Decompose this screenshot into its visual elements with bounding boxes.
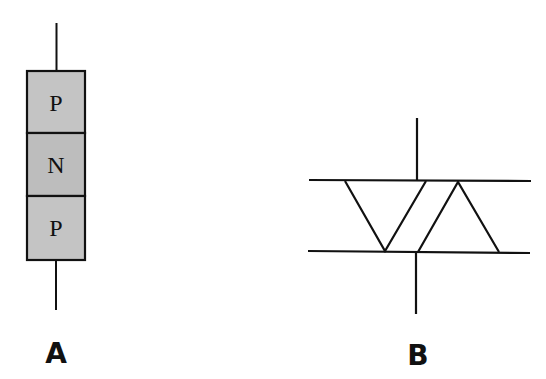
layer-label-p-top: P [49,90,62,116]
diagram-b-label: B [407,339,428,372]
diagram-b-top-rail [309,180,531,181]
diagram-a: P N P A [27,23,85,370]
layer-label-p-bottom: P [49,215,62,241]
diagram-a-label: A [45,337,67,370]
layer-label-n: N [47,152,64,178]
diagram-b-inverted-triangle [345,181,426,251]
diagram-canvas: P N P A B [0,0,546,379]
diagram-b-upright-triangle [418,182,499,252]
diagram-b [308,118,531,314]
